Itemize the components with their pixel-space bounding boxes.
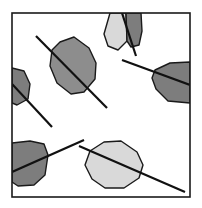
figure-root: top light polygontop dark polygonleft up… bbox=[0, 0, 202, 208]
figure-canvas: top light polygontop dark polygonleft up… bbox=[0, 0, 202, 208]
